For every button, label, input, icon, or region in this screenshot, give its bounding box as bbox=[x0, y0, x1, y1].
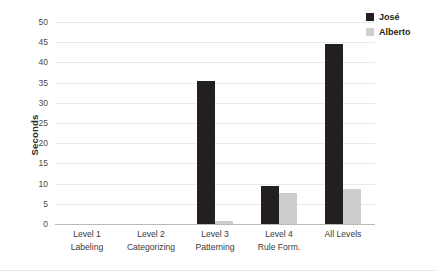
y-tick-label-10: 10 bbox=[39, 179, 48, 189]
bar-alberto bbox=[215, 221, 233, 224]
bar-group bbox=[247, 22, 311, 224]
x-tick-label-line: Labeling bbox=[55, 241, 119, 254]
bar-group bbox=[119, 22, 183, 224]
x-tick-label-line: Level 3 bbox=[183, 228, 247, 241]
x-axis-tick-labels: Level 1LabelingLevel 2CategorizingLevel … bbox=[55, 228, 375, 253]
y-tick-label-25: 25 bbox=[39, 118, 48, 128]
gridline-0 bbox=[55, 224, 375, 225]
bar-group bbox=[183, 22, 247, 224]
x-tick-label: Level 3Patterning bbox=[183, 228, 247, 253]
x-tick-label: Level 4Rule Form. bbox=[247, 228, 311, 253]
y-tick-label-45: 45 bbox=[39, 37, 48, 47]
x-tick-label-line: All Levels bbox=[311, 228, 375, 241]
x-tick-label: Level 2Categorizing bbox=[119, 228, 183, 253]
x-tick-label-line: Categorizing bbox=[119, 241, 183, 254]
legend-label-alberto: Alberto bbox=[379, 27, 411, 37]
bar-jose bbox=[325, 44, 343, 224]
bar-group bbox=[55, 22, 119, 224]
bar-groups bbox=[55, 22, 375, 224]
y-tick-label-15: 15 bbox=[39, 158, 48, 168]
y-tick-label-40: 40 bbox=[39, 57, 48, 67]
bar-jose bbox=[261, 186, 279, 224]
x-tick-label-line: Patterning bbox=[183, 241, 247, 254]
x-tick-label-line: Level 2 bbox=[119, 228, 183, 241]
x-tick-label: Level 1Labeling bbox=[55, 228, 119, 253]
legend-swatch-jose bbox=[366, 13, 374, 21]
x-tick-label: All Levels bbox=[311, 228, 375, 253]
plot-area: 50454035302520151050 bbox=[55, 22, 375, 224]
y-tick-label-5: 5 bbox=[43, 199, 48, 209]
y-tick-label-20: 20 bbox=[39, 138, 48, 148]
bar-chart-figure: Seconds 50454035302520151050 Level 1Labe… bbox=[0, 0, 436, 270]
x-tick-label-line: Level 4 bbox=[247, 228, 311, 241]
legend-swatch-alberto bbox=[366, 28, 374, 36]
legend: José Alberto bbox=[366, 12, 411, 42]
legend-label-jose: José bbox=[379, 12, 400, 22]
y-tick-label-35: 35 bbox=[39, 78, 48, 88]
y-tick-label-50: 50 bbox=[39, 17, 48, 27]
bar-alberto bbox=[343, 189, 361, 224]
y-tick-label-0: 0 bbox=[43, 219, 48, 229]
x-tick-label-line: Rule Form. bbox=[247, 241, 311, 254]
y-tick-label-30: 30 bbox=[39, 98, 48, 108]
legend-item-alberto: Alberto bbox=[366, 27, 411, 37]
bar-group bbox=[311, 22, 375, 224]
x-tick-label-line: Level 1 bbox=[55, 228, 119, 241]
legend-item-jose: José bbox=[366, 12, 411, 22]
bar-alberto bbox=[279, 193, 297, 224]
bar-jose bbox=[197, 81, 215, 224]
